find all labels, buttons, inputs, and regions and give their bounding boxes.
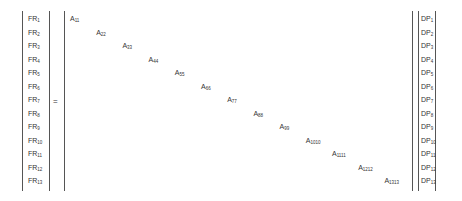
- matrix-left-bar: [64, 11, 65, 191]
- matrix-diagonal-entry: A11: [70, 14, 79, 25]
- fr-entry: FR1: [28, 14, 40, 25]
- fr-entry: FR13: [28, 176, 42, 187]
- dp-entry: DP5: [421, 68, 433, 79]
- matrix-diagonal-entry: A1010: [306, 136, 321, 147]
- fr-entry: FR11: [28, 149, 42, 160]
- matrix-diagonal-entry: A99: [280, 122, 290, 133]
- matrix-diagonal-entry: A66: [201, 82, 211, 93]
- matrix-diagonal-entry: A33: [122, 41, 132, 52]
- fr-entry: FR6: [28, 82, 40, 93]
- fr-entry: FR12: [28, 163, 42, 174]
- dp-entry: DP10: [421, 136, 436, 147]
- fr-vector-left-bar: [22, 11, 23, 191]
- dp-entry: DP11: [421, 149, 435, 160]
- matrix-diagonal-entry: A77: [227, 95, 237, 106]
- equals-sign: =: [53, 97, 58, 106]
- fr-entry: FR10: [28, 136, 42, 147]
- dp-entry: DP6: [421, 82, 433, 93]
- dp-entry: DP13: [421, 176, 436, 187]
- matrix-diagonal-entry: A44: [149, 55, 159, 66]
- dp-entry: DP1: [421, 14, 433, 25]
- dp-entry: DP7: [421, 95, 433, 106]
- fr-entry: FR5: [28, 68, 40, 79]
- fr-entry: FR3: [28, 41, 40, 52]
- dp-entry: DP12: [421, 163, 436, 174]
- matrix-diagonal-entry: A1313: [384, 176, 399, 187]
- dp-entry: DP2: [421, 28, 433, 39]
- matrix-diagonal-entry: A88: [253, 109, 263, 120]
- fr-vector-right-bar: [49, 11, 50, 191]
- matrix-diagonal-entry: A1212: [358, 163, 373, 174]
- fr-entry: FR8: [28, 109, 40, 120]
- fr-entry: FR2: [28, 28, 40, 39]
- dp-entry: DP8: [421, 109, 433, 120]
- dp-entry: DP3: [421, 41, 433, 52]
- dp-vector-left-bar: [418, 11, 419, 191]
- matrix-diagonal-entry: A55: [175, 68, 185, 79]
- matrix-right-bar: [412, 11, 413, 191]
- matrix-diagonal-entry: A1111: [332, 149, 346, 160]
- fr-entry: FR4: [28, 55, 40, 66]
- fr-entry: FR9: [28, 122, 40, 133]
- fr-entry: FR7: [28, 95, 40, 106]
- dp-entry: DP9: [421, 122, 433, 133]
- matrix-diagonal-entry: A22: [96, 28, 106, 39]
- dp-entry: DP4: [421, 55, 433, 66]
